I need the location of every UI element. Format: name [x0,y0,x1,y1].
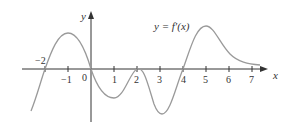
tick-label: −2 [35,55,46,66]
derivative-curve [31,26,260,114]
tick-label: 3 [157,74,162,85]
tick-label: 4 [181,74,186,85]
curve-label: y = f′(x) [153,20,190,33]
x-axis-arrow-icon [260,66,268,72]
tick-label: 1 [112,74,117,85]
tick-label: −1 [61,74,72,85]
y-axis-arrow-icon [88,11,94,19]
x-axis-label: x [272,69,278,81]
y-axis-label: y [80,10,86,22]
tick-label: 0 [82,72,87,83]
tick-label: 5 [203,74,208,85]
derivative-graph: x y −2 −1 0 1 2 3 4 5 6 7 y = f′(x) [0,0,295,131]
tick-label: 2 [134,74,139,85]
tick-label: 7 [249,74,254,85]
tick-label: 6 [226,74,231,85]
